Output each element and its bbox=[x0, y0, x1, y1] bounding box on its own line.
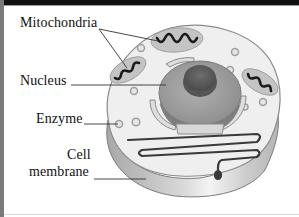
label-cell-membrane-line1: Cell bbox=[67, 147, 91, 163]
mitochondria-leader-line-2 bbox=[99, 29, 127, 68]
label-enzyme: Enzyme bbox=[36, 111, 82, 127]
nucleus bbox=[159, 61, 241, 134]
mitochondria-leader-line-1 bbox=[99, 29, 158, 41]
label-mitochondria: Mitochondria bbox=[20, 15, 97, 31]
cell-diagram bbox=[0, 0, 299, 217]
label-nucleus: Nucleus bbox=[20, 73, 67, 89]
label-cell-membrane-line2: membrane bbox=[29, 164, 89, 180]
